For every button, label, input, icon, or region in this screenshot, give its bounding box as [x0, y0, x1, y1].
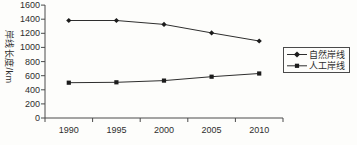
x-tick-label: 2005: [202, 125, 222, 135]
y-tick-label: 1400: [20, 14, 40, 24]
diamond-marker-icon: [161, 22, 166, 27]
x-tick-label: 2000: [154, 125, 174, 135]
y-tick-marks: [41, 5, 45, 118]
square-marker-icon: [210, 75, 214, 79]
diamond-marker-icon: [257, 38, 262, 43]
shoreline-length-chart: 岸线长度/km 1600 1400 1200 1000 800 600 400 …: [0, 0, 357, 145]
chart-canvas: 岸线长度/km 1600 1400 1200 1000 800 600 400 …: [0, 0, 357, 145]
square-marker-icon: [114, 80, 118, 84]
y-tick-label: 1000: [20, 42, 40, 52]
y-tick-label: 200: [25, 99, 40, 109]
square-marker-icon: [162, 79, 166, 83]
legend: 自然岸线 人工岸线: [284, 48, 350, 73]
square-marker-icon: [295, 64, 299, 68]
y-tick-label: 1200: [20, 28, 40, 38]
legend-label: 人工岸线: [309, 60, 345, 71]
x-tick-label: 1990: [59, 125, 79, 135]
x-tick-marks: [45, 118, 283, 122]
y-tick-label: 0: [35, 113, 40, 123]
y-tick-label: 600: [25, 71, 40, 81]
square-marker-icon: [257, 71, 261, 75]
diamond-marker-icon: [209, 30, 214, 35]
diamond-marker-icon: [66, 18, 71, 23]
x-tick-label: 2010: [249, 125, 269, 135]
diamond-marker-icon: [114, 18, 119, 23]
series-layer: [66, 18, 262, 85]
y-tick-label: 400: [25, 85, 40, 95]
y-tick-label: 1600: [20, 0, 40, 10]
legend-label: 自然岸线: [309, 49, 345, 60]
square-marker-icon: [67, 81, 71, 85]
y-axis-title: 岸线长度/km: [4, 30, 15, 83]
x-tick-label: 1995: [106, 125, 126, 135]
y-tick-label: 800: [25, 57, 40, 67]
